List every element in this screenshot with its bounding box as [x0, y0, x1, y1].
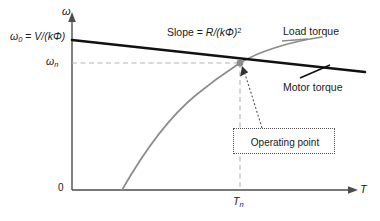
y-axis-label: ω — [62, 6, 71, 17]
Tn-tick-label: Tn — [233, 196, 244, 208]
slope-prefix: Slope — [167, 26, 194, 38]
motor-torque-label: Motor torque — [283, 82, 343, 93]
omega-zero-expression: V/(kΦ) — [34, 30, 65, 42]
operating-point-callout-box: Operating point — [233, 128, 335, 154]
slope-equals: = — [194, 26, 206, 38]
slope-expression: R/(kΦ) — [206, 26, 238, 38]
operating-point-callout-arrow — [240, 66, 262, 128]
origin-label: 0 — [58, 183, 64, 193]
Tn-subscript: n — [239, 200, 243, 209]
x-axis-label: T — [360, 184, 367, 195]
omega-symbol: ω — [10, 30, 18, 42]
motor-torque-line — [72, 40, 365, 72]
load-torque-curve — [122, 37, 322, 190]
omega-n-tick-label: ωn — [46, 56, 58, 68]
omega-zero-equals: = — [22, 30, 34, 42]
omega-n-subscript: n — [54, 60, 58, 69]
slope-exponent: 2 — [237, 26, 241, 35]
operating-point-marker — [237, 60, 244, 67]
speed-torque-diagram: ω ω0 = V/(kΦ) ωn 0 T Tn Slope = R/(kΦ)2 … — [0, 0, 380, 221]
x-axis — [72, 186, 358, 194]
omega-n-symbol: ω — [46, 55, 54, 67]
load-torque-label: Load torque — [283, 26, 339, 37]
operating-point-label: Operating point — [234, 129, 336, 155]
slope-annotation: Slope = R/(kΦ)2 — [167, 27, 242, 38]
omega-zero-tick-label: ω0 = V/(kΦ) — [10, 31, 65, 43]
